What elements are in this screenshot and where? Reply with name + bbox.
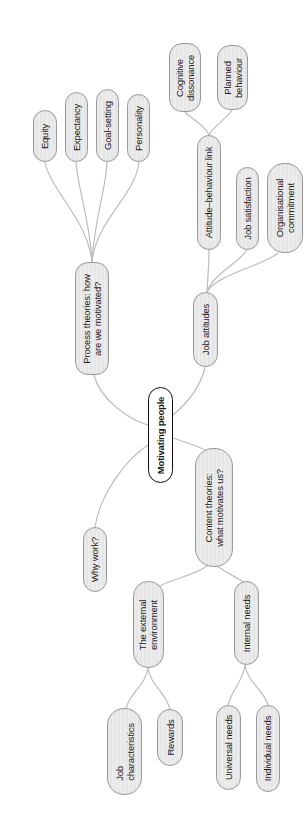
node-label: Planned behaviour bbox=[222, 58, 244, 98]
node-label: Process theories: how are we motivated? bbox=[81, 274, 103, 363]
node-attitude-behaviour-link[interactable]: Attitude–behaviour link bbox=[197, 135, 221, 250]
node-label: Cognitive dissonance bbox=[174, 54, 196, 100]
node-why-work[interactable]: Why work? bbox=[83, 527, 107, 592]
node-individual-needs[interactable]: Individual needs bbox=[256, 705, 280, 792]
node-label: Why work? bbox=[90, 537, 101, 582]
node-external-environment[interactable]: The external environment bbox=[133, 581, 164, 668]
center-node-motivating-people[interactable]: Motivating people bbox=[148, 387, 173, 483]
node-rewards[interactable]: Rewards bbox=[157, 709, 183, 766]
node-planned-behaviour[interactable]: Planned behaviour bbox=[217, 45, 248, 110]
node-label: The external environment bbox=[138, 599, 160, 649]
node-label: Individual needs bbox=[263, 716, 274, 781]
node-label: Job satisfaction bbox=[242, 177, 253, 239]
node-job-attitudes[interactable]: Job attitudes bbox=[193, 292, 218, 367]
node-label: Job attitudes bbox=[200, 304, 211, 355]
node-job-characteristics[interactable]: Job characteristics bbox=[107, 708, 142, 795]
node-personality[interactable]: Personality bbox=[127, 94, 150, 162]
node-label: Rewards bbox=[165, 719, 176, 755]
node-label: Internal needs bbox=[241, 594, 252, 651]
node-equity[interactable]: Equity bbox=[33, 110, 57, 162]
node-organisational-commitment[interactable]: Organisational commitment bbox=[267, 163, 303, 253]
node-expectancy[interactable]: Expectancy bbox=[65, 92, 88, 162]
node-label: Attitude–behaviour link bbox=[204, 147, 215, 239]
node-label: Goal-setting bbox=[102, 101, 113, 150]
node-content-theories[interactable]: Content theories: what motivates us? bbox=[195, 448, 233, 567]
node-label: Content theories: what motivates us? bbox=[203, 469, 225, 547]
node-internal-needs[interactable]: Internal needs bbox=[234, 581, 259, 665]
node-label: Job characteristics bbox=[114, 723, 136, 781]
node-label: Motivating people bbox=[155, 396, 166, 473]
node-job-satisfaction[interactable]: Job satisfaction bbox=[236, 167, 259, 250]
node-label: Expectancy bbox=[71, 103, 82, 150]
node-label: Organisational commitment bbox=[274, 179, 296, 237]
node-cognitive-dissonance[interactable]: Cognitive dissonance bbox=[169, 43, 201, 112]
node-label: Personality bbox=[133, 106, 144, 151]
node-universal-needs[interactable]: Universal needs bbox=[216, 705, 241, 790]
node-label: Universal needs bbox=[223, 715, 234, 780]
mind-map-canvas: Motivating people Process theories: how … bbox=[0, 0, 308, 837]
node-process-theories[interactable]: Process theories: how are we motivated? bbox=[75, 262, 109, 375]
node-goal-setting[interactable]: Goal-setting bbox=[96, 89, 119, 162]
node-label: Equity bbox=[40, 123, 51, 148]
